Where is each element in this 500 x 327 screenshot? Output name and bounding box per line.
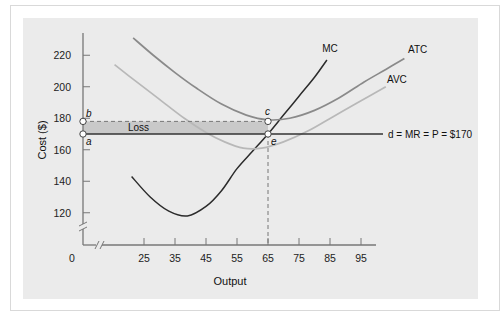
mc-label: MC [322, 43, 338, 54]
y-tick-label: 220 [53, 49, 71, 61]
chart-labels: MCATCAVCd = MR = P = $170 [322, 43, 472, 140]
y-axis-title: Cost ($) [36, 120, 48, 159]
x-tick-label: 55 [231, 252, 243, 264]
atc-label: ATC [408, 44, 427, 55]
x-axis-title: Output [213, 275, 246, 287]
reference-lines [83, 121, 383, 245]
avc-curve [115, 65, 386, 149]
point-c [265, 118, 271, 124]
x-tick-label: 25 [138, 252, 150, 264]
point-label-a: a [86, 136, 92, 147]
avc-label: AVC [387, 74, 407, 85]
point-label-c: c [265, 106, 270, 117]
loss-area: Loss [83, 121, 268, 134]
mc-curve [132, 60, 327, 216]
y-tick-label: 140 [53, 175, 71, 187]
y-tick-label: 180 [53, 112, 71, 124]
point-label-b: b [86, 108, 92, 119]
axes: 12014016018020022025354555657585950Outpu… [36, 33, 376, 287]
price-line-label: d = MR = P = $170 [388, 129, 472, 140]
x-tick-label: 95 [355, 252, 367, 264]
x-tick-label: 65 [262, 252, 274, 264]
origin-label: 0 [69, 252, 75, 264]
y-tick-label: 120 [53, 207, 71, 219]
x-tick-label: 45 [200, 252, 212, 264]
y-tick-label: 160 [53, 144, 71, 156]
loss-label: Loss [128, 122, 149, 133]
x-tick-label: 75 [293, 252, 305, 264]
point-label-e: e [271, 136, 277, 147]
y-tick-label: 200 [53, 81, 71, 93]
x-tick-label: 35 [169, 252, 181, 264]
x-tick-label: 85 [324, 252, 336, 264]
loss-rectangle [83, 121, 268, 134]
